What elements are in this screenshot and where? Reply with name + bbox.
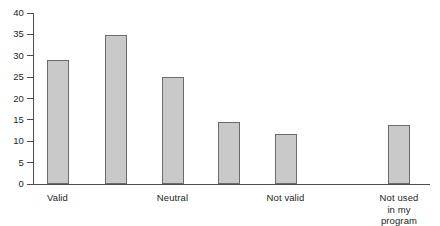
x-axis-label: Not used in my program <box>379 192 420 226</box>
x-axis-label: Neutral <box>157 192 188 204</box>
bar-chart: 0510152025303540 ValidNeutralNot validNo… <box>0 0 440 226</box>
bar <box>275 134 297 184</box>
bar <box>162 77 184 184</box>
bar <box>47 60 69 184</box>
bar <box>218 122 240 184</box>
bar <box>388 125 410 184</box>
bar <box>105 35 127 184</box>
x-axis-label: Not valid <box>267 192 305 204</box>
x-axis-label: Valid <box>47 192 68 204</box>
